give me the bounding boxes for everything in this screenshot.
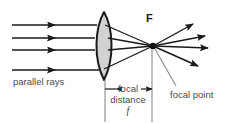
parallel-rays-label: parallel rays: [13, 76, 64, 87]
focal-distance-label: focal distance: [106, 83, 150, 105]
refracted-ray-2: [108, 38, 153, 46]
diverging-ray-4: [153, 46, 198, 66]
optics-diagram: parallel rays focal distance f focal poi…: [0, 0, 227, 123]
focal-point-label: focal point: [170, 89, 213, 100]
focus-marker-label: F: [146, 13, 153, 24]
incoming-parallel-rays-group: [12, 25, 99, 70]
focal-length-symbol-label: f: [106, 105, 150, 116]
diverging-ray-3: [153, 46, 208, 48]
